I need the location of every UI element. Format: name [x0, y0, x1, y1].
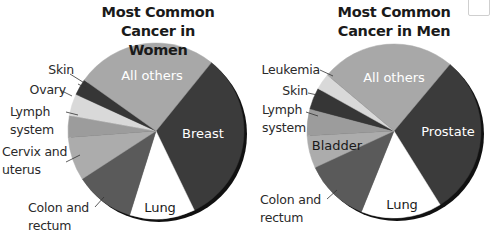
women-label-colon-line-1: Colon and	[28, 199, 89, 217]
men-label-leukemia: Leukemia	[256, 61, 320, 79]
women-chart-title: Most Common Cancer in Women	[92, 3, 224, 60]
women-label-skin: Skin	[40, 61, 74, 79]
women-label-ovary: Ovary	[24, 81, 66, 99]
men-label-lymph: Lymph system	[262, 101, 306, 137]
men-label-prostate: Prostate	[421, 124, 475, 140]
women-label-cervix-line-2: uterus	[2, 161, 67, 179]
women-label-all-others: All others	[121, 68, 183, 84]
men-label-colon-line-2: rectum	[260, 209, 321, 227]
women-title-line-2: Cancer in Women	[92, 22, 224, 60]
women-label-lymph-line-2: system	[10, 121, 54, 139]
women-title-line-1: Most Common	[92, 3, 224, 22]
men-label-lung: Lung	[386, 197, 418, 213]
men-label-lymph-line-2: system	[262, 119, 306, 137]
women-label-lymph: Lymph system	[10, 103, 54, 139]
women-label-colon-rectum: Colon and rectum	[28, 199, 89, 235]
men-title-line-1: Most Common	[332, 3, 456, 22]
women-label-cervix-uterus: Cervix and uterus	[2, 143, 67, 179]
women-label-cervix-line-1: Cervix and	[2, 143, 67, 161]
men-label-lymph-line-1: Lymph	[262, 101, 306, 119]
men-label-colon-rectum: Colon and rectum	[260, 191, 321, 227]
men-label-skin: Skin	[270, 82, 308, 100]
women-label-breast: Breast	[182, 126, 224, 142]
women-label-colon-line-2: rectum	[28, 217, 89, 235]
men-title-line-2: Cancer in Men	[332, 22, 456, 41]
women-label-lymph-line-1: Lymph	[10, 103, 54, 121]
men-label-colon-line-1: Colon and	[260, 191, 321, 209]
men-chart-title: Most Common Cancer in Men	[332, 3, 456, 41]
men-label-bladder: Bladder	[312, 138, 362, 154]
women-label-lung: Lung	[144, 200, 176, 216]
men-label-all-others: All others	[363, 70, 425, 86]
